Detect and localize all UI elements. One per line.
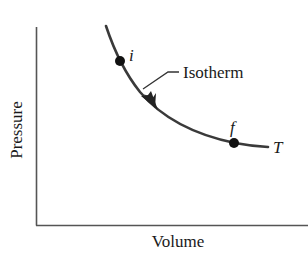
pv-diagram: i f Isotherm T Pressure Volume — [0, 0, 308, 255]
point-f-marker — [229, 138, 239, 148]
point-i-marker — [115, 56, 125, 66]
isotherm-label: Isotherm — [183, 63, 243, 82]
y-axis-title: Pressure — [7, 101, 26, 159]
isotherm-leader-line — [143, 72, 179, 89]
point-f-label: f — [230, 118, 237, 137]
x-axis-title: Volume — [152, 232, 205, 251]
point-i-label: i — [129, 46, 134, 65]
temperature-label: T — [273, 138, 284, 157]
isotherm-curve — [106, 26, 268, 147]
